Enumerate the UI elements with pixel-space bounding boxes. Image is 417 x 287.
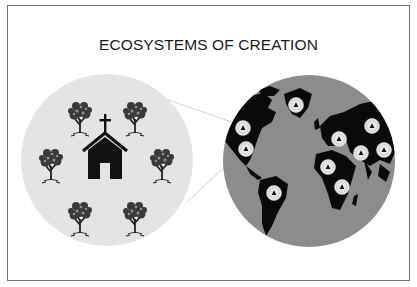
location-marker	[377, 143, 392, 158]
location-marker	[335, 180, 350, 195]
location-marker	[321, 160, 336, 175]
location-marker	[354, 146, 369, 161]
location-marker	[365, 119, 380, 134]
location-marker	[267, 186, 282, 201]
location-marker	[239, 142, 254, 157]
global-ecosystem-circle	[222, 75, 400, 247]
location-marker	[236, 121, 251, 136]
location-marker	[332, 132, 347, 147]
location-marker	[289, 98, 304, 113]
local-ecosystem-circle	[21, 74, 193, 246]
diagram-canvas	[0, 0, 417, 287]
